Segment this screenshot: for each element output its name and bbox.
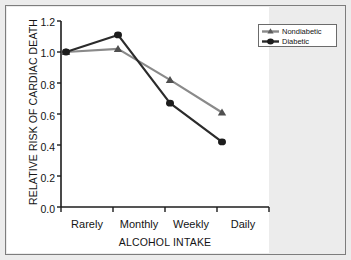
- data-point-diabetic-monthly: [114, 32, 122, 39]
- data-point-diabetic-daily: [218, 139, 226, 146]
- data-point-diabetic-weekly: [166, 100, 174, 107]
- series-line-nondiabetic: [66, 49, 222, 113]
- data-point-diabetic-rarely: [62, 49, 70, 56]
- figure-container: RELATIVE RISK OF CARDIAC DEATH 1.2 1.0 0…: [0, 0, 351, 260]
- chart-plot: [0, 0, 351, 260]
- data-series-layer: [62, 32, 226, 146]
